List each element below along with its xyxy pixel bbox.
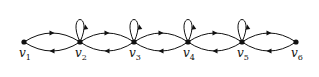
node-label-v3: v3 (129, 47, 141, 62)
arrow-icon (105, 31, 110, 36)
self-loop-edge-v2 (76, 20, 84, 43)
self-loop-edge-v4 (184, 20, 192, 43)
arrow-icon (213, 31, 218, 36)
edge-v4-v3 (134, 42, 188, 51)
directed-graph (0, 0, 319, 77)
node-label-v1: v1 (19, 47, 31, 62)
edge-v5-v4 (188, 42, 242, 51)
node-label-v2: v2 (75, 47, 87, 62)
node-v6 (293, 39, 298, 44)
edge-v3-v4 (134, 33, 188, 42)
arrow-icon (267, 49, 272, 54)
arrow-icon (159, 49, 164, 54)
edge-v2-v3 (80, 33, 134, 42)
node-v3 (131, 39, 136, 44)
node-v1 (21, 39, 26, 44)
edge-v6-v5 (242, 42, 296, 51)
arrow-icon (50, 49, 55, 54)
arrow-icon (105, 49, 110, 54)
node-label-v5: v5 (237, 47, 249, 62)
node-v2 (77, 39, 82, 44)
self-loop-edge-v3 (130, 20, 138, 43)
edge-v2-v1 (24, 42, 80, 51)
arrow-icon (267, 31, 272, 36)
node-label-v4: v4 (183, 47, 195, 62)
arrow-icon (213, 49, 218, 54)
node-v5 (239, 39, 244, 44)
self-loop-edge-v5 (238, 20, 246, 43)
edge-v3-v2 (80, 42, 134, 51)
node-v4 (185, 39, 190, 44)
edge-v4-v5 (188, 33, 242, 42)
edge-v5-v6 (242, 33, 296, 42)
edge-v1-v2 (24, 33, 80, 42)
node-label-v6: v6 (291, 47, 303, 62)
arrow-icon (50, 31, 55, 36)
arrow-icon (159, 31, 164, 36)
